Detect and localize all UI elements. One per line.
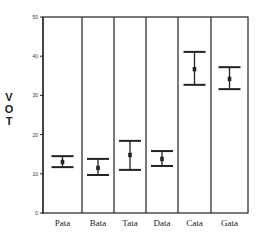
y-tick-label: 20 xyxy=(32,132,38,138)
x-category-label: Data xyxy=(154,218,171,228)
error-bar-pata xyxy=(52,156,74,167)
mean-marker xyxy=(228,77,232,81)
y-tick-label: 50 xyxy=(32,14,38,20)
errorbar-chart: VOT 01020304050 PataBataTataDataCataGata xyxy=(0,0,264,243)
mean-marker xyxy=(128,153,132,157)
y-axis: 01020304050 xyxy=(32,14,43,216)
mean-marker xyxy=(96,166,100,170)
x-axis-labels: PataBataTataDataCataGata xyxy=(55,218,238,228)
y-axis-label-letter: T xyxy=(6,115,13,127)
y-tick-label: 30 xyxy=(32,92,38,98)
x-category-label: Gata xyxy=(221,218,238,228)
error-bar-gata xyxy=(219,67,241,89)
y-axis-label-letter: V xyxy=(5,91,13,103)
category-panels xyxy=(43,17,248,213)
error-bar-data xyxy=(151,151,173,166)
x-category-label: Tata xyxy=(122,218,137,228)
x-category-label: Bata xyxy=(90,218,107,228)
x-category-label: Pata xyxy=(55,218,71,228)
mean-marker xyxy=(193,67,197,71)
x-category-label: Cata xyxy=(186,218,203,228)
y-axis-label-letter: O xyxy=(5,103,14,115)
error-bar-cata xyxy=(184,52,206,85)
y-tick-label: 0 xyxy=(35,210,38,216)
mean-marker xyxy=(61,160,65,164)
y-tick-label: 40 xyxy=(32,53,38,59)
error-bar-tata xyxy=(119,141,141,170)
y-axis-label: VOT xyxy=(5,91,14,127)
error-bar-bata xyxy=(87,159,109,175)
y-tick-label: 10 xyxy=(32,171,38,177)
mean-marker xyxy=(160,157,164,161)
